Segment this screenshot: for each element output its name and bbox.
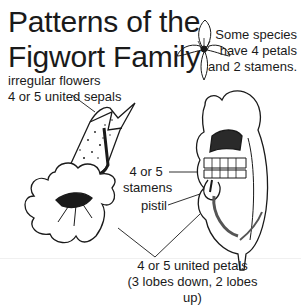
sepals-label: irregular flowers 4 or 5 united sepals xyxy=(8,73,121,105)
sepals-label-line-1: irregular flowers xyxy=(8,73,121,89)
petals-label-line-2: (3 lobes down, 2 lobes up) xyxy=(120,274,265,306)
note-line-2: have 4 petals xyxy=(208,43,297,59)
pistil-label: pistil xyxy=(141,198,167,214)
note-line-3: and 2 stamens. xyxy=(208,59,297,75)
stamens-label: 4 or 5 stamens xyxy=(123,164,169,196)
petals-label-line-1: 4 or 5 united petals xyxy=(120,258,265,274)
stamens-label-line-1: 4 or 5 xyxy=(123,164,169,180)
side-flower xyxy=(197,91,268,270)
sepals-label-line-2: 4 or 5 united sepals xyxy=(8,89,121,105)
species-note: Some species have 4 petals and 2 stamens… xyxy=(208,27,297,75)
petals-leader-line xyxy=(118,214,200,257)
stamens-label-line-2: stamens xyxy=(123,180,169,196)
note-line-1: Some species xyxy=(208,27,297,43)
petals-label: 4 or 5 united petals (3 lobes down, 2 lo… xyxy=(120,258,265,306)
title-line-1: Patterns of the xyxy=(8,4,200,39)
page-title: Patterns of the Figwort Family xyxy=(8,4,200,74)
pistil-leader-line xyxy=(168,194,200,205)
title-line-2: Figwort Family xyxy=(8,39,200,74)
front-flower xyxy=(25,103,135,243)
